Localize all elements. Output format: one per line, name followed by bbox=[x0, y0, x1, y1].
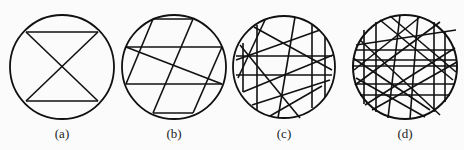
panel-b-diagram bbox=[122, 15, 226, 119]
panel-c-diagram bbox=[233, 16, 335, 118]
panel-d-diagram bbox=[353, 15, 457, 119]
ray-trajectory-diagram bbox=[0, 0, 464, 150]
panel-label-b: (b) bbox=[166, 126, 181, 142]
panel-a-diagram bbox=[10, 15, 114, 119]
panel-label-d: (d) bbox=[397, 126, 412, 142]
panel-label-c: (c) bbox=[277, 126, 291, 142]
panel-label-a: (a) bbox=[55, 126, 69, 142]
